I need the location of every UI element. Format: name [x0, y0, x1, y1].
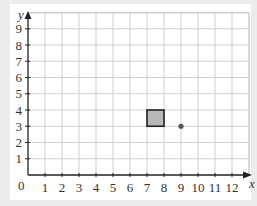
y-tick-label: 3	[16, 119, 23, 134]
gridlines	[28, 13, 249, 176]
y-tick-label: 5	[16, 86, 23, 101]
square-shape	[147, 110, 164, 126]
x-tick-label: 4	[93, 180, 100, 195]
y-tick-label: 2	[16, 135, 23, 150]
y-tick-label: 6	[16, 70, 23, 85]
y-tick-label: 7	[16, 54, 23, 69]
coordinate-grid: 123456789101112123456789 x y 0	[0, 0, 257, 206]
x-tick-label: 7	[144, 180, 151, 195]
y-axis-label: y	[16, 7, 24, 22]
x-tick-label: 12	[226, 180, 239, 195]
x-tick-label: 8	[161, 180, 168, 195]
x-tick-label: 1	[42, 180, 49, 195]
x-tick-label: 3	[76, 180, 83, 195]
tick-labels: 123456789101112123456789	[16, 21, 239, 195]
point-marker	[178, 124, 183, 129]
x-tick-label: 9	[178, 180, 185, 195]
x-tick-label: 11	[209, 180, 222, 195]
x-tick-label: 6	[127, 180, 134, 195]
y-tick-label: 4	[16, 103, 23, 118]
axes	[25, 11, 253, 179]
x-tick-label: 5	[110, 180, 117, 195]
y-tick-label: 9	[16, 21, 23, 36]
x-tick-label: 10	[192, 180, 205, 195]
x-tick-label: 2	[59, 180, 66, 195]
y-tick-label: 1	[16, 151, 23, 166]
origin-label: 0	[18, 178, 25, 193]
x-axis-label: x	[248, 176, 255, 191]
y-tick-label: 8	[16, 38, 23, 53]
